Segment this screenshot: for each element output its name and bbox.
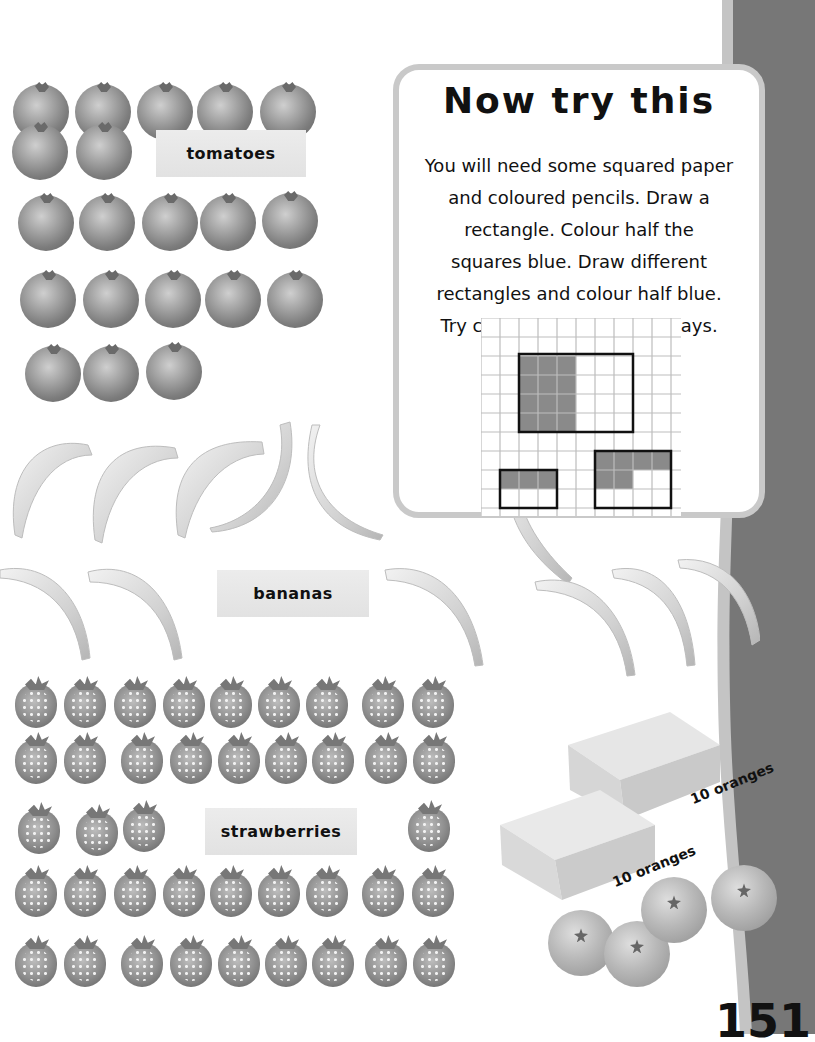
- strawberry: [76, 812, 118, 856]
- tomato: [20, 272, 76, 328]
- strawberry: [170, 943, 212, 987]
- tomato: [262, 193, 318, 249]
- tomato: [146, 344, 202, 400]
- tomato: [200, 195, 256, 251]
- strawberry: [362, 873, 404, 917]
- tomato: [145, 272, 201, 328]
- strawberry: [362, 684, 404, 728]
- tomato: [18, 195, 74, 251]
- orange: [641, 877, 707, 943]
- tomato: [25, 346, 81, 402]
- strawberry: [64, 684, 106, 728]
- strawberry: [15, 943, 57, 987]
- strawberry: [265, 943, 307, 987]
- strawberry: [121, 943, 163, 987]
- page-number: 151: [715, 994, 811, 1042]
- strawberry: [258, 873, 300, 917]
- strawberry: [412, 684, 454, 728]
- strawberry: [218, 943, 260, 987]
- tomato: [79, 195, 135, 251]
- activity-card: Now try this You will need some squared …: [393, 64, 765, 518]
- strawberry: [121, 740, 163, 784]
- strawberry: [163, 873, 205, 917]
- bananas-label: bananas: [217, 570, 369, 617]
- tomato: [76, 124, 132, 180]
- activity-instructions: You will need some squared paper and col…: [413, 150, 745, 342]
- tomato: [12, 124, 68, 180]
- strawberry: [312, 943, 354, 987]
- orange: [548, 910, 614, 976]
- tomato: [267, 272, 323, 328]
- tomato: [83, 346, 139, 402]
- strawberry: [15, 684, 57, 728]
- strawberry: [114, 684, 156, 728]
- strawberry: [265, 740, 307, 784]
- strawberry: [210, 684, 252, 728]
- strawberry: [413, 740, 455, 784]
- strawberry: [64, 873, 106, 917]
- strawberry: [114, 873, 156, 917]
- strawberry: [170, 740, 212, 784]
- tomato: [83, 272, 139, 328]
- strawberry: [412, 873, 454, 917]
- strawberry: [218, 740, 260, 784]
- strawberry: [408, 808, 450, 852]
- strawberry: [163, 684, 205, 728]
- strawberry: [365, 740, 407, 784]
- strawberry: [15, 873, 57, 917]
- squared-paper-illustration: [481, 318, 681, 516]
- strawberries-label: strawberries: [205, 808, 357, 855]
- strawberry: [64, 943, 106, 987]
- strawberry: [210, 873, 252, 917]
- activity-title: Now try this: [399, 80, 759, 121]
- tomato: [205, 272, 261, 328]
- strawberry: [15, 740, 57, 784]
- strawberry: [64, 740, 106, 784]
- tomato: [142, 195, 198, 251]
- strawberry: [123, 808, 165, 852]
- strawberry: [18, 810, 60, 854]
- orange: [711, 865, 777, 931]
- strawberry: [312, 740, 354, 784]
- strawberry: [306, 684, 348, 728]
- strawberry: [413, 943, 455, 987]
- strawberry: [365, 943, 407, 987]
- strawberry: [306, 873, 348, 917]
- tomatoes-label: tomatoes: [156, 130, 306, 177]
- strawberry: [258, 684, 300, 728]
